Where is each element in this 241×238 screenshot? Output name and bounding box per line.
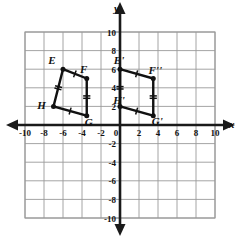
x-tick-label: 10 — [211, 128, 221, 138]
y-axis-label: y — [112, 2, 119, 14]
x-tick-label: -6 — [59, 128, 67, 138]
single-tick-mark — [136, 70, 138, 77]
y-tick-label: 10 — [107, 28, 117, 38]
x-tick-label: 4 — [156, 128, 161, 138]
vertex-label: F'' — [148, 64, 162, 76]
x-tick-label: -8 — [40, 128, 48, 138]
parallelograms — [54, 69, 154, 116]
x-tick-label: -2 — [97, 128, 105, 138]
vertex-label: E — [47, 54, 55, 66]
congruence-tick-marks — [54, 70, 156, 114]
vertex-labels: EFGHE'F''G'H' — [36, 54, 163, 128]
single-tick-mark — [136, 108, 138, 115]
x-tick-label: 8 — [194, 128, 199, 138]
x-tick-label: -10 — [19, 128, 31, 138]
x-tick-label: 6 — [175, 128, 180, 138]
y-tick-label: -10 — [104, 214, 116, 224]
y-tick-label: 4 — [112, 83, 117, 93]
x-tick-label: -4 — [78, 128, 86, 138]
vertex-point — [118, 67, 123, 72]
x-axis-label: x — [228, 118, 235, 130]
x-tick-label: 0 — [114, 128, 119, 138]
vertex-label: H' — [112, 94, 125, 106]
vertex-point — [61, 67, 66, 72]
single-tick-mark — [69, 108, 71, 115]
coordinate-grid-svg: -10-8-6-4-20246810 108642-2-4-6-8-10 EFG… — [0, 0, 241, 238]
y-tick-label: -4 — [109, 158, 117, 168]
vertex-label: G — [85, 116, 93, 128]
axes — [6, 2, 235, 236]
y-axis-arrow-down — [115, 224, 126, 236]
vertex-label: G' — [152, 115, 163, 127]
vertex-label: F — [79, 63, 88, 75]
y-tick-label: -8 — [109, 195, 117, 205]
vertex-point — [51, 104, 56, 109]
y-tick-label: -2 — [109, 139, 117, 149]
double-tick-mark — [55, 86, 62, 88]
coordinate-plane-figure: -10-8-6-4-20246810 108642-2-4-6-8-10 EFG… — [0, 0, 241, 238]
vertex-point — [151, 76, 156, 81]
x-axis-arrow-left — [6, 120, 18, 131]
x-tick-label: 2 — [137, 128, 142, 138]
vertex-label: H — [36, 99, 46, 111]
y-tick-label: -6 — [109, 176, 117, 186]
vertex-label: E' — [113, 54, 124, 66]
double-tick-mark — [54, 88, 61, 90]
vertex-point — [84, 76, 89, 81]
